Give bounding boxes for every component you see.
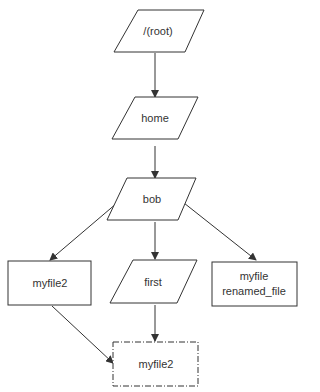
node-myfile-renamed: renamed_file bbox=[222, 284, 286, 299]
node-myfile2-dashed-label: myfile2 bbox=[139, 357, 174, 372]
edge-bob-myfile bbox=[184, 203, 256, 260]
edge-myfile2-dashed bbox=[52, 306, 113, 363]
node-myfile-name: myfile bbox=[222, 269, 286, 284]
node-root-label: /(root) bbox=[143, 24, 172, 39]
edge-bob-myfile2 bbox=[50, 203, 117, 260]
node-home-label: home bbox=[141, 111, 169, 126]
node-bob-label: bob bbox=[143, 192, 161, 207]
node-myfile2-label: myfile2 bbox=[33, 276, 68, 291]
node-myfile-label: myfile renamed_file bbox=[222, 269, 286, 299]
node-first-label: first bbox=[144, 275, 162, 290]
